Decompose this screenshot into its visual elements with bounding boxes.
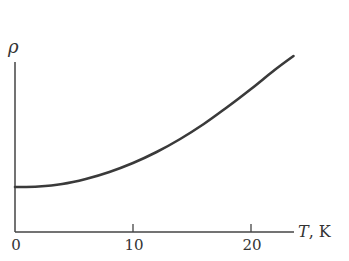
y-axis-label: ρ bbox=[8, 38, 19, 56]
x-tick-label-20: 20 bbox=[242, 238, 261, 253]
x-axis-label: T, K bbox=[298, 224, 331, 240]
x-tick-label-0: 0 bbox=[11, 238, 21, 253]
plot-area bbox=[0, 0, 349, 261]
resistivity-curve bbox=[15, 56, 294, 187]
x-axis-variable: T bbox=[298, 222, 309, 241]
x-tick-label-10: 10 bbox=[124, 238, 143, 253]
x-axis-unit: , K bbox=[309, 222, 331, 241]
